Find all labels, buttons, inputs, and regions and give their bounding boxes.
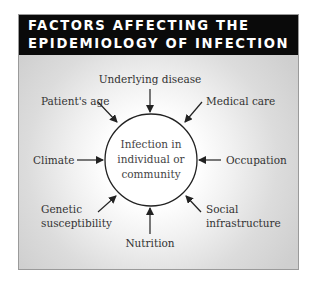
factor-social-line-1: Social [206, 203, 239, 215]
center-label-line-2: individual or [117, 153, 185, 165]
factor-patients-age: Patient's age [41, 95, 109, 107]
factor-nutrition: Nutrition [125, 237, 174, 249]
factors-diagram: Infection in individual or community Und… [0, 0, 311, 281]
center-label-line-3: community [121, 168, 180, 180]
center-label-line-1: Infection in [120, 138, 181, 150]
arrow-genetic-susceptibility [98, 196, 116, 212]
factor-climate: Climate [33, 154, 74, 166]
factor-occupation: Occupation [226, 154, 287, 166]
factor-underlying-disease: Underlying disease [99, 73, 202, 85]
factor-medical-care: Medical care [206, 95, 275, 107]
arrow-social-infrastructure [186, 196, 201, 212]
factor-genetic-line-2: susceptibility [41, 217, 112, 229]
factor-social-line-2: infrastructure [206, 217, 281, 229]
factor-genetic-line-1: Genetic [41, 203, 82, 215]
arrow-medical-care [185, 102, 202, 122]
